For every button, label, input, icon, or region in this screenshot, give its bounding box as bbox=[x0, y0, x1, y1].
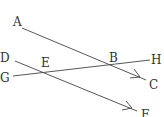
line-gh bbox=[13, 60, 150, 76]
label-g: G bbox=[0, 71, 10, 85]
label-e: E bbox=[41, 56, 50, 70]
label-f: F bbox=[141, 108, 149, 117]
label-b: B bbox=[109, 51, 118, 65]
geometry-diagram: A B C D E F G H bbox=[0, 0, 164, 117]
label-h: H bbox=[151, 53, 161, 67]
label-d: D bbox=[0, 51, 10, 65]
label-c: C bbox=[149, 78, 158, 92]
label-a: A bbox=[12, 15, 22, 29]
line-ac bbox=[22, 28, 146, 80]
